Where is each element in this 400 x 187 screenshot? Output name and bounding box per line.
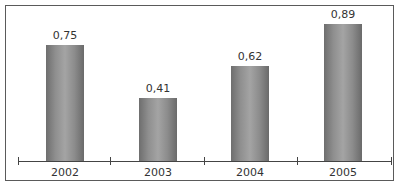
x-axis-tick (110, 157, 111, 165)
bar-2003 (139, 98, 177, 161)
value-label: 0,89 (313, 8, 373, 21)
category-label: 2004 (220, 166, 280, 179)
category-label: 2005 (313, 166, 373, 179)
value-label: 0,41 (128, 82, 188, 95)
bar-2005 (324, 24, 362, 161)
x-axis-tick (391, 157, 392, 165)
x-axis-tick (297, 157, 298, 165)
category-label: 2002 (35, 166, 95, 179)
x-axis-line (18, 161, 392, 162)
category-label: 2003 (128, 166, 188, 179)
x-axis-tick (204, 157, 205, 165)
value-label: 0,75 (35, 29, 95, 42)
x-axis-tick (18, 157, 19, 165)
bar-2004 (231, 66, 269, 161)
bar-2002 (46, 45, 84, 161)
value-label: 0,62 (220, 50, 280, 63)
